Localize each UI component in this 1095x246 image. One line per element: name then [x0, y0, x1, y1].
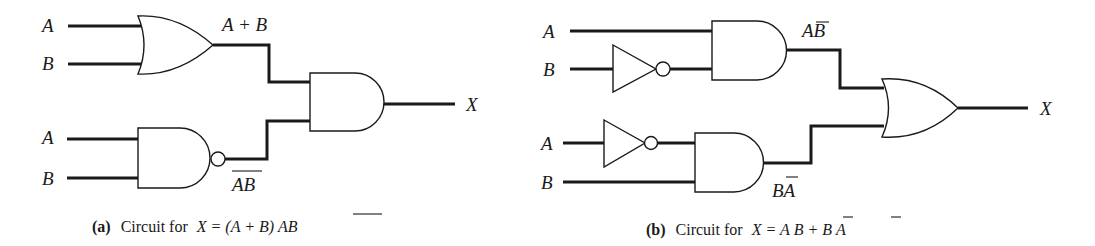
caption-a-expr-bar: AB [277, 218, 298, 235]
wire-and-bottom-to-or [763, 126, 884, 163]
label-or-output: A + B [220, 14, 268, 35]
label-and-bottom-output: BA [772, 177, 798, 201]
caption-a: (a) Circuit for X = (A + B) AB [92, 214, 382, 236]
label-and-top-output: AB [800, 20, 829, 41]
caption-b-expr-bar1: B [794, 221, 804, 238]
and-bottom-output-text: BA [772, 180, 796, 201]
caption-a-text: (a) Circuit for X = (A + B) AB [92, 218, 298, 236]
label-input-b-bottom: B [541, 172, 553, 193]
and-bottom-bar: A [782, 180, 796, 201]
label-input-b-top: B [543, 59, 555, 80]
and-gate-icon [310, 73, 384, 131]
caption-b-expr-plus: + B [808, 221, 833, 238]
and-top-output-text: AB [800, 20, 826, 41]
label-input-a-bottom: A [40, 127, 54, 148]
wire-nand-to-and [225, 121, 310, 159]
caption-b-expr-x: X = A [751, 221, 790, 238]
and-bottom-plain: B [772, 180, 784, 201]
and-top-bar: B [814, 20, 826, 41]
circuit-a: A B A B A + B AB X (a) Circuit for [40, 14, 479, 236]
and-gate-icon [695, 133, 764, 192]
not-gate-icon [613, 45, 656, 92]
and-gate-icon [712, 21, 787, 80]
caption-a-desc: Circuit for [121, 218, 189, 235]
inversion-bubble-icon [645, 137, 658, 150]
label-output-x: X [1039, 98, 1053, 119]
caption-b-expr-bar2: A [835, 221, 846, 238]
label-input-a-top: A [40, 15, 54, 36]
logic-circuit-diagram: A B A B A + B AB X (a) Circuit for [0, 0, 1095, 246]
inversion-bubble-icon [211, 152, 225, 166]
caption-a-expr: X = (A + B) [196, 218, 274, 236]
and-top-plain: A [800, 20, 814, 41]
label-input-a-bottom: A [539, 133, 553, 154]
caption-a-tag: (a) [92, 218, 111, 236]
nand-gate-icon [138, 128, 210, 188]
or-gate-icon [138, 16, 213, 74]
or-gate-icon [882, 79, 958, 138]
label-input-b-top: B [42, 53, 54, 74]
circuit-b: A B A B AB BA X [539, 20, 1053, 239]
caption-b: (b) Circuit for X = A B + B A [646, 217, 901, 239]
nand-output-text: AB [230, 174, 256, 195]
not-gate-icon [604, 120, 645, 167]
wire-or-to-and [213, 45, 310, 82]
inversion-bubble-icon [656, 62, 670, 76]
label-input-b-bottom: B [42, 168, 54, 189]
caption-b-tag: (b) [646, 221, 666, 239]
label-nand-output: AB [230, 171, 262, 195]
label-output-x: X [465, 94, 479, 115]
caption-b-text: (b) Circuit for X = A B + B A [646, 221, 846, 239]
label-input-a-top: A [541, 21, 555, 42]
wire-and-top-to-or [786, 50, 884, 88]
caption-b-desc: Circuit for [676, 221, 744, 238]
